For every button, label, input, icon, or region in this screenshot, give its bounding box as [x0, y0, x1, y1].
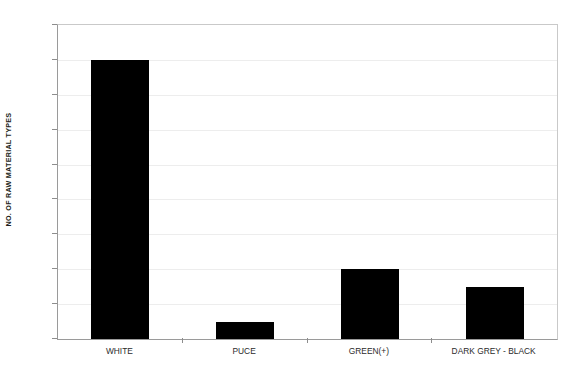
x-axis-tick-label: PUCE [182, 346, 307, 356]
x-axis-tick-label: DARK GREY - BLACK [431, 346, 556, 356]
y-axis-title-label: NO. OF RAW MATERIAL TYPES [5, 112, 14, 226]
y-axis-tick [52, 198, 57, 199]
y-axis-tick [52, 338, 57, 339]
y-axis-tick [52, 303, 57, 304]
plot-area [57, 24, 558, 340]
y-axis-tick [52, 59, 57, 60]
bar [216, 322, 274, 339]
y-axis-tick [52, 164, 57, 165]
x-axis-tick [431, 338, 432, 343]
y-axis-tick [52, 94, 57, 95]
x-axis-tick [182, 338, 183, 343]
y-axis-title: NO. OF RAW MATERIAL TYPES [0, 0, 18, 338]
y-axis-tick [52, 24, 57, 25]
y-axis-tick [52, 233, 57, 234]
x-axis-tick-label: WHITE [57, 346, 182, 356]
bar-chart: NO. OF RAW MATERIAL TYPES 02468101214161… [0, 0, 571, 372]
x-axis-tick [307, 338, 308, 343]
bar [466, 287, 524, 339]
x-axis-tick-label: GREEN(+) [307, 346, 432, 356]
y-axis-tick [52, 268, 57, 269]
y-axis-tick [52, 129, 57, 130]
bar [91, 60, 149, 339]
bar [341, 269, 399, 339]
